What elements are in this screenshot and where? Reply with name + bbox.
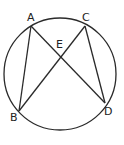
circle-chord-diagram: A C E B D	[0, 0, 124, 145]
point-label-e: E	[56, 38, 63, 51]
point-label-d: D	[104, 105, 112, 118]
segment-AD	[31, 26, 105, 103]
circle	[4, 18, 116, 130]
point-label-b: B	[10, 111, 18, 124]
point-label-a: A	[27, 11, 35, 24]
point-label-c: C	[82, 11, 90, 24]
